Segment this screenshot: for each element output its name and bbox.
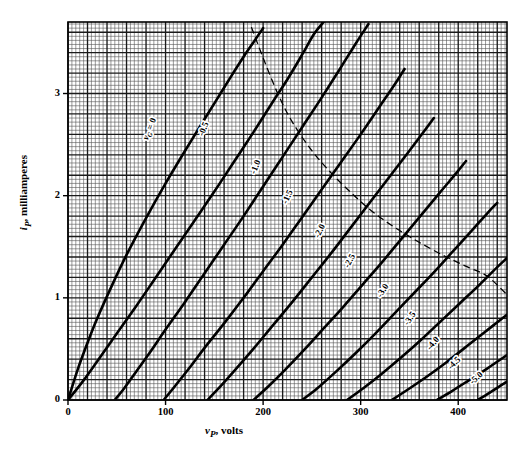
curve-label-text: -2.5 [342,252,358,270]
plot-area: vG = 0vG = 0-0.5-0.5-1.0-1.0-1.5-1.5-2.0… [0,0,532,452]
characteristic-curves [68,22,507,400]
y-tick-label-1: 1 [44,291,60,302]
constant-power-dashed-curve [251,27,507,295]
x-tick-label-3: 300 [349,406,373,417]
x-axis-label-unit: , volts [215,424,243,436]
curve-label-text: -1.0 [248,158,263,175]
x-tick-label-2: 200 [251,406,275,417]
curve-label-2: -1.0-1.0 [248,158,263,175]
x-tick-label-1: 100 [154,406,178,417]
y-axis-label-unit: , milliamperes [17,155,29,221]
constant-power-curve [251,27,507,295]
curve-label-text: -3.0 [374,281,390,299]
curve-label-0: vG = 0vG = 0 [140,116,159,142]
curve-label-5: -2.5-2.5 [342,252,358,270]
y-tick-label-2: 2 [44,189,60,200]
y-tick-label-3: 3 [44,87,60,98]
y-axis-label: iP, milliamperes [17,138,32,248]
curve-label-text: -4.5 [445,354,462,371]
plate-characteristics-chart: iP, milliamperes vP, volts vG = 0vG = 0-… [0,0,532,452]
x-axis-label: vP, volts [205,424,243,439]
y-tick-label-0: 0 [44,393,60,404]
curve-label-6: -3.0-3.0 [374,281,390,299]
curve-label-9: -4.5-4.5 [445,354,462,371]
curve-8 [392,315,507,400]
x-tick-label-4: 400 [446,406,470,417]
curve-labels: vG = 0vG = 0-0.5-0.5-1.0-1.0-1.5-1.5-2.0… [140,116,485,386]
curve-label-text: vG = 0 [140,116,159,142]
y-axis-label-symbol: i [17,227,29,230]
curve-1 [68,22,324,400]
curve-10 [478,382,507,400]
x-tick-label-0: 0 [56,406,80,417]
y-axis-label-subscript: P [23,221,33,227]
